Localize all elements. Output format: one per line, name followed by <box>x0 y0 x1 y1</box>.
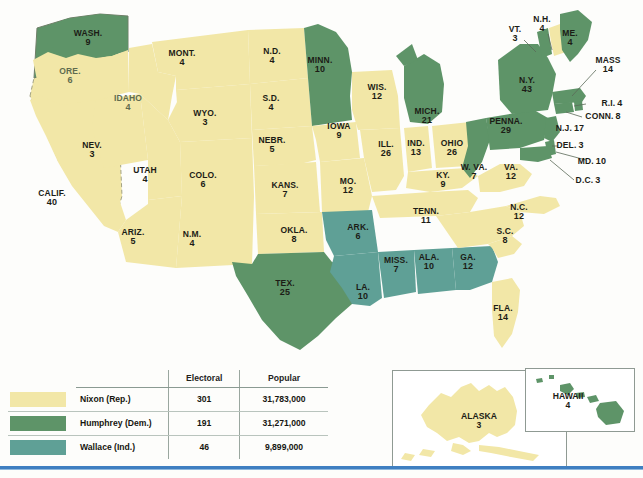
wallace-electoral: 46 <box>169 435 240 459</box>
humphrey-electoral: 191 <box>169 411 240 435</box>
wallace-swatch <box>10 440 66 455</box>
nixon-swatch <box>10 392 66 407</box>
wallace-popular: 9,899,000 <box>240 435 328 459</box>
results-table: Electoral Popular Nixon (Rep.) 301 31,78… <box>8 370 328 459</box>
results-legend: Electoral Popular Nixon (Rep.) 301 31,78… <box>8 370 328 466</box>
election-map-figure: .s{stroke:#9a9a7a;stroke-width:.9;stroke… <box>0 0 643 478</box>
hawaii-shape <box>526 369 634 431</box>
header-electoral: Electoral <box>169 370 240 388</box>
table-header-row: Electoral Popular <box>8 370 328 388</box>
table-row: Humphrey (Dem.) 191 31,271,000 <box>8 411 328 435</box>
humphrey-swatch-cell <box>8 411 76 435</box>
nixon-electoral: 301 <box>169 388 240 412</box>
table-row: Wallace (Ind.) 46 9,899,000 <box>8 435 328 459</box>
humphrey-popular: 31,271,000 <box>240 411 328 435</box>
nixon-label: Nixon (Rep.) <box>76 388 169 412</box>
nixon-popular: 31,783,000 <box>240 388 328 412</box>
bottom-rule-secondary <box>0 469 643 470</box>
nixon-swatch-cell <box>8 388 76 412</box>
table-row: Nixon (Rep.) 301 31,783,000 <box>8 388 328 412</box>
header-swatch <box>8 370 76 388</box>
wallace-label: Wallace (Ind.) <box>76 435 169 459</box>
header-popular: Popular <box>240 370 328 388</box>
wallace-swatch-cell <box>8 435 76 459</box>
hawaii-inset: HAWAII4 <box>525 368 635 432</box>
humphrey-label: Humphrey (Dem.) <box>76 411 169 435</box>
header-candidate <box>76 370 169 388</box>
humphrey-swatch <box>10 416 66 431</box>
